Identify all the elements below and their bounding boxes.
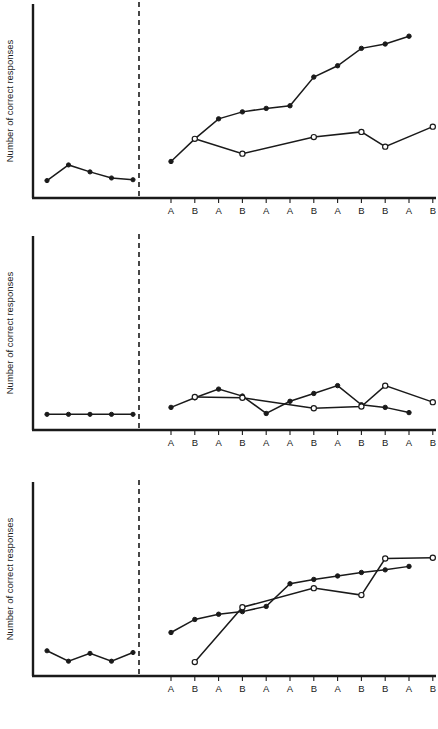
open-series-data-point bbox=[240, 395, 245, 400]
x-axis-tick-label-b-10: B bbox=[382, 205, 388, 216]
open-series-data-point bbox=[192, 394, 197, 399]
open-series-data-point bbox=[430, 400, 435, 405]
baseline-data-point bbox=[131, 650, 135, 654]
filled-series-data-point bbox=[407, 34, 411, 38]
open-series-line bbox=[195, 386, 433, 409]
x-axis-tick-label-a-6: A bbox=[287, 205, 294, 216]
x-axis-tick-label-a-3: A bbox=[215, 205, 222, 216]
filled-series-data-point bbox=[169, 405, 173, 409]
figure-root: Number of correct responsesABABAABABBAB … bbox=[0, 0, 438, 729]
open-series-data-point bbox=[359, 592, 364, 597]
filled-series-data-point bbox=[335, 574, 339, 578]
open-series-line bbox=[195, 558, 433, 662]
panel-3-plot: Number of correct responsesABABAABABBAB bbox=[0, 478, 438, 704]
open-series-data-point bbox=[240, 605, 245, 610]
open-series-data-point bbox=[240, 151, 245, 156]
panel-2-plot: Number of correct responsesABABAABABBAB bbox=[0, 232, 438, 458]
x-axis-tick-label-a-1: A bbox=[168, 205, 175, 216]
filled-series-data-point bbox=[383, 42, 387, 46]
open-series-data-point bbox=[311, 586, 316, 591]
open-series-data-point bbox=[430, 124, 435, 129]
y-axis-label: Number of correct responses bbox=[4, 40, 15, 163]
x-axis-tick-label-b-2: B bbox=[192, 205, 198, 216]
open-series-data-point bbox=[359, 129, 364, 134]
x-axis-tick-label-a-3: A bbox=[215, 437, 222, 448]
filled-series-data-point bbox=[312, 75, 316, 79]
x-axis-tick-label-b-7: B bbox=[311, 683, 317, 694]
filled-series-data-point bbox=[335, 383, 339, 387]
filled-series-data-point bbox=[383, 568, 387, 572]
x-axis-tick-label-a-8: A bbox=[334, 205, 341, 216]
open-series-data-point bbox=[311, 135, 316, 140]
x-axis-tick-label-b-4: B bbox=[239, 683, 245, 694]
filled-series-data-point bbox=[288, 399, 292, 403]
x-axis-tick-label-b-7: B bbox=[311, 437, 317, 448]
x-axis-tick-label-b-4: B bbox=[239, 205, 245, 216]
filled-series-data-point bbox=[264, 604, 268, 608]
x-axis-tick-label-a-6: A bbox=[287, 683, 294, 694]
open-series-data-point bbox=[192, 136, 197, 141]
x-axis-tick-label-b-10: B bbox=[382, 437, 388, 448]
x-axis-tick-label-a-11: A bbox=[406, 205, 413, 216]
x-axis-tick-label-b-9: B bbox=[358, 683, 364, 694]
baseline-data-point bbox=[109, 659, 113, 663]
filled-series-data-point bbox=[216, 612, 220, 616]
x-axis-tick-label-a-1: A bbox=[168, 437, 175, 448]
x-axis-tick-label-a-3: A bbox=[215, 683, 222, 694]
baseline-data-point bbox=[88, 170, 92, 174]
filled-series-data-point bbox=[169, 630, 173, 634]
x-axis-tick-label-a-8: A bbox=[334, 683, 341, 694]
filled-series-data-point bbox=[383, 405, 387, 409]
filled-series-data-point bbox=[359, 570, 363, 574]
baseline-data-point bbox=[109, 412, 113, 416]
filled-series-data-point bbox=[240, 110, 244, 114]
baseline-data-point bbox=[45, 179, 49, 183]
filled-series-data-point bbox=[407, 564, 411, 568]
y-axis-label: Number of correct responses bbox=[4, 518, 15, 641]
x-axis-tick-label-b-9: B bbox=[358, 437, 364, 448]
filled-series-data-point bbox=[359, 46, 363, 50]
open-series-data-point bbox=[430, 555, 435, 560]
chart-panel-3: Number of correct responsesABABAABABBAB bbox=[0, 478, 438, 704]
x-axis-tick-label-a-11: A bbox=[406, 437, 413, 448]
x-axis-tick-label-b-10: B bbox=[382, 683, 388, 694]
filled-series-data-point bbox=[264, 411, 268, 415]
filled-series-data-point bbox=[216, 387, 220, 391]
x-axis-tick-label-b-2: B bbox=[192, 437, 198, 448]
open-series-data-point bbox=[192, 659, 197, 664]
x-axis-tick-label-b-12: B bbox=[430, 205, 436, 216]
open-series-data-point bbox=[383, 556, 388, 561]
x-axis-tick-label-a-11: A bbox=[406, 683, 413, 694]
x-axis-tick-label-b-4: B bbox=[239, 437, 245, 448]
x-axis-tick-label-b-9: B bbox=[358, 205, 364, 216]
filled-series-data-point bbox=[264, 106, 268, 110]
chart-panel-2: Number of correct responsesABABAABABBAB bbox=[0, 232, 438, 458]
baseline-data-point bbox=[66, 412, 70, 416]
filled-series-data-point bbox=[169, 159, 173, 163]
baseline-data-point bbox=[45, 412, 49, 416]
x-axis-tick-label-a-6: A bbox=[287, 437, 294, 448]
x-axis-tick-label-a-1: A bbox=[168, 683, 175, 694]
x-axis-tick-label-a-5: A bbox=[263, 437, 270, 448]
open-series-data-point bbox=[311, 406, 316, 411]
x-axis-tick-label-b-2: B bbox=[192, 683, 198, 694]
filled-series-data-point bbox=[288, 582, 292, 586]
y-axis-label: Number of correct responses bbox=[4, 272, 15, 395]
baseline-data-point bbox=[66, 659, 70, 663]
filled-series-data-point bbox=[216, 117, 220, 121]
filled-series-data-point bbox=[193, 617, 197, 621]
baseline-data-point bbox=[66, 163, 70, 167]
baseline-data-point bbox=[109, 176, 113, 180]
baseline-data-point bbox=[88, 412, 92, 416]
baseline-data-point bbox=[88, 651, 92, 655]
open-series-data-point bbox=[359, 404, 364, 409]
filled-series-data-point bbox=[312, 577, 316, 581]
chart-panel-1: Number of correct responsesABABAABABBAB bbox=[0, 0, 438, 222]
baseline-data-point bbox=[45, 649, 49, 653]
filled-series-data-point bbox=[288, 104, 292, 108]
x-axis-tick-label-a-5: A bbox=[263, 205, 270, 216]
filled-series-data-point bbox=[407, 410, 411, 414]
panel-1-plot: Number of correct responsesABABAABABBAB bbox=[0, 0, 438, 222]
baseline-data-point bbox=[131, 178, 135, 182]
filled-series-data-point bbox=[312, 391, 316, 395]
